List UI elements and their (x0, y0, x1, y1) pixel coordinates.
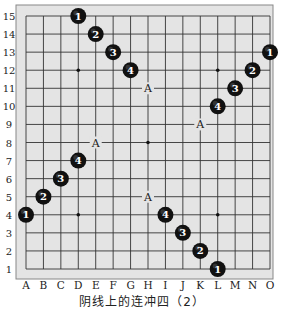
column-label: I (163, 279, 167, 291)
stone-number: 1 (75, 11, 82, 22)
star-point (216, 68, 220, 72)
gomoku-board-diagram: 151413121110987654321ABCDEFGHIJKLMNOAAAA… (0, 0, 284, 312)
column-label: O (266, 279, 275, 291)
stone-number: 4 (214, 101, 221, 112)
row-label: 6 (6, 174, 12, 185)
diagram-caption: 阴线上的连冲四（2） (0, 292, 284, 309)
column-label: J (180, 279, 185, 291)
column-label: M (230, 279, 241, 291)
column-label: C (57, 279, 65, 291)
row-label: 14 (3, 29, 16, 40)
column-label: E (92, 279, 100, 291)
stone-number: 1 (23, 209, 30, 220)
row-label: 9 (6, 119, 12, 130)
row-label: 10 (3, 101, 16, 112)
row-label: 2 (6, 246, 12, 257)
row-label: 3 (6, 228, 12, 239)
column-label: B (40, 279, 48, 291)
board-svg: 151413121110987654321ABCDEFGHIJKLMNOAAAA… (0, 0, 284, 292)
row-label: 1 (6, 264, 12, 275)
column-label: L (214, 279, 221, 291)
column-label: F (109, 279, 116, 291)
stone-number: 4 (162, 209, 169, 220)
stone-number: 2 (249, 65, 256, 76)
stone-number: 3 (179, 227, 186, 238)
stone-number: 2 (197, 245, 204, 256)
stone-number: 2 (92, 29, 99, 40)
stone-number: 3 (110, 47, 117, 58)
column-label: K (196, 279, 204, 291)
column-label: G (126, 279, 134, 291)
column-label: D (74, 279, 82, 291)
marker-a: A (195, 118, 205, 131)
marker-a: A (143, 82, 153, 95)
stone-number: 4 (127, 65, 134, 76)
row-label: 11 (3, 83, 16, 94)
star-point (76, 68, 80, 72)
row-label: 12 (3, 65, 16, 76)
column-label: H (143, 279, 152, 291)
stone-number: 3 (232, 83, 239, 94)
star-point (146, 141, 150, 145)
row-label: 13 (3, 47, 16, 58)
row-label: 4 (6, 210, 12, 221)
star-point (216, 213, 220, 217)
row-label: 15 (3, 11, 16, 22)
column-label: A (21, 279, 30, 291)
row-label: 7 (6, 156, 12, 167)
stone-number: 2 (40, 191, 47, 202)
star-point (76, 213, 80, 217)
column-label: N (248, 279, 257, 291)
marker-a: A (143, 191, 153, 204)
stone-number: 3 (57, 173, 64, 184)
stone-number: 1 (267, 47, 274, 58)
stone-number: 4 (75, 155, 82, 166)
marker-a: A (91, 137, 101, 150)
row-label: 8 (6, 138, 12, 149)
board-background (16, 5, 273, 279)
row-label: 5 (6, 192, 12, 203)
stone-number: 1 (214, 264, 221, 275)
